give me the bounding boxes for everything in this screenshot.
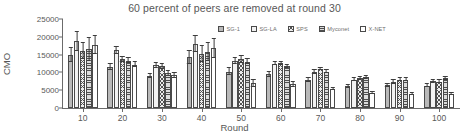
- bar-sg-la-round-30: [153, 65, 158, 108]
- bar-x-net-round-30: [171, 75, 176, 108]
- error-bar-cap: [431, 82, 435, 83]
- error-bar-cap: [370, 91, 374, 92]
- bar-slot: [114, 19, 119, 108]
- x-axis-tick-label: 90: [395, 113, 404, 123]
- bar-sg-la-round-100: [430, 81, 435, 108]
- error-bar-cap: [370, 93, 374, 94]
- error-bar-cap: [443, 76, 447, 77]
- error-bar-cap: [108, 69, 112, 70]
- error-bar-cap: [160, 63, 164, 64]
- bar-group: [63, 19, 103, 108]
- bar-slot: [159, 19, 164, 108]
- legend-swatch-icon: [288, 26, 294, 32]
- error-bar-cap: [126, 57, 130, 58]
- bar-sg-la-round-50: [232, 61, 237, 108]
- bar-x-net-round-100: [449, 94, 454, 108]
- legend-item-sg-1[interactable]: SG-1: [218, 26, 240, 32]
- legend-item-x-net[interactable]: X-NET: [360, 26, 386, 32]
- bar-slot: [132, 19, 137, 108]
- error-bar-cap: [132, 66, 136, 67]
- bar-slot: [305, 19, 310, 108]
- bar-slot: [238, 19, 243, 108]
- bar-slot: [193, 19, 198, 108]
- error-bar-cap: [318, 69, 322, 70]
- error-bar-cap: [449, 92, 453, 93]
- error-bar-cap: [403, 77, 407, 78]
- plot-area: 0500010000150002000025000102030405060708…: [63, 19, 459, 108]
- error-bar-cap: [324, 72, 328, 73]
- bar-slot: [153, 19, 158, 108]
- legend-item-myconet[interactable]: Myconet: [319, 26, 349, 32]
- bar-slot: [211, 19, 216, 108]
- y-axis-tick-label: 15000: [37, 50, 59, 59]
- chart-title: 60 percent of peers are removed at round…: [0, 2, 469, 14]
- x-axis-tick-mark: [83, 108, 84, 112]
- bar-myconet-round-20: [126, 61, 131, 108]
- y-axis-tick-label: 5000: [41, 86, 59, 95]
- x-axis-tick-label: 30: [157, 113, 166, 123]
- error-bar-cap: [346, 87, 350, 88]
- error-bar-cap: [120, 61, 124, 62]
- error-bar: [195, 36, 196, 52]
- bar-sg-1-round-60: [266, 74, 271, 108]
- error-bar-cap: [74, 50, 78, 51]
- x-axis-tick-mark: [241, 108, 242, 112]
- error-bar-cap: [205, 42, 209, 43]
- legend-label: X-NET: [369, 26, 386, 32]
- bar-slot: [345, 19, 350, 108]
- y-axis-tick-label: 20000: [37, 32, 59, 41]
- error-bar-cap: [391, 83, 395, 84]
- legend-label: Myconet: [327, 26, 349, 32]
- error-bar-cap: [233, 63, 237, 64]
- x-axis-tick-label: 60: [276, 113, 285, 123]
- error-bar-cap: [87, 60, 91, 61]
- bar-sg-1-round-70: [305, 80, 310, 108]
- error-bar-cap: [166, 75, 170, 76]
- error-bar-cap: [245, 58, 249, 59]
- error-bar-cap: [114, 53, 118, 54]
- error-bar-cap: [272, 61, 276, 62]
- error-bar-cap: [132, 61, 136, 62]
- error-bar-cap: [108, 63, 112, 64]
- bar-slot: [430, 19, 435, 108]
- x-axis-tick-mark: [122, 108, 123, 112]
- error-bar-cap: [199, 45, 203, 46]
- bar-slot: [245, 19, 250, 108]
- bar-slot: [363, 19, 368, 108]
- bar-sps-round-10: [80, 51, 85, 108]
- legend-item-sg-la[interactable]: SG-LA: [251, 26, 277, 32]
- x-axis-tick-mark: [162, 108, 163, 112]
- x-axis-tick-label: 100: [432, 113, 446, 123]
- y-axis-label: CMO: [1, 53, 12, 75]
- error-bar: [70, 48, 71, 62]
- bar-slot: [86, 19, 91, 108]
- x-axis-tick-mark: [400, 108, 401, 112]
- x-axis-tick-mark: [320, 108, 321, 112]
- bar-sps-round-70: [318, 69, 323, 108]
- bar-myconet-round-60: [284, 66, 289, 108]
- error-bar: [95, 36, 96, 54]
- x-axis-label: Round: [0, 122, 469, 133]
- error-bar-cap: [306, 81, 310, 82]
- error-bar-cap: [291, 81, 295, 82]
- error-bar-cap: [449, 94, 453, 95]
- bar-group: [419, 19, 459, 108]
- x-axis-tick-label: 10: [78, 113, 87, 123]
- bar-sg-1-round-100: [424, 86, 429, 108]
- error-bar-cap: [324, 69, 328, 70]
- bar-group: [340, 19, 380, 108]
- bar-slot: [80, 19, 85, 108]
- error-bar-cap: [437, 82, 441, 83]
- error-bar-cap: [358, 76, 362, 77]
- y-axis-tick-label: 10000: [37, 68, 59, 77]
- bar-slot: [318, 19, 323, 108]
- bar-slot: [107, 19, 112, 108]
- bar-myconet-round-70: [324, 72, 329, 108]
- legend-swatch-icon: [360, 26, 366, 32]
- legend-item-sps[interactable]: SPS: [288, 26, 308, 32]
- bar-sps-round-50: [238, 59, 243, 108]
- bar-sg-1-round-90: [385, 85, 390, 108]
- bar-sg-la-round-70: [312, 72, 317, 108]
- legend-label: SG-LA: [259, 26, 276, 32]
- bar-slot: [165, 19, 170, 108]
